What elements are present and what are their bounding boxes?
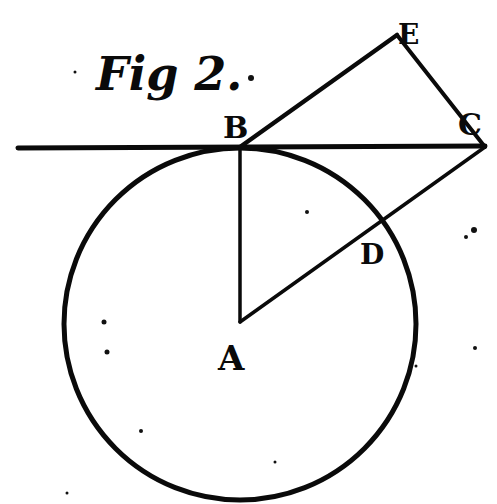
label-a: A [217, 338, 245, 378]
geometry-figure: Fig 2. B E C D A [0, 0, 497, 504]
line-be [240, 35, 397, 147]
figure-title: Fig 2. [94, 47, 242, 101]
label-c: C [458, 107, 482, 142]
line-ac [240, 147, 485, 322]
label-b: B [223, 110, 248, 145]
ink-specks [66, 71, 478, 495]
label-e: E [398, 18, 419, 51]
label-d: D [360, 238, 384, 271]
tangent-line [18, 146, 485, 148]
